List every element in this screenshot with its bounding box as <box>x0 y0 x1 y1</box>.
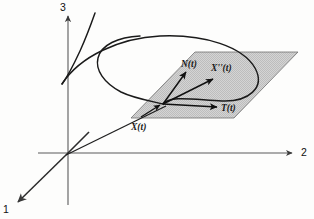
figure-canvas <box>0 0 314 219</box>
origin-tick-segment <box>68 132 89 153</box>
label-normal-vector: N(t) <box>181 60 197 70</box>
axis-1-label: 1 <box>3 204 9 215</box>
axis-1-line <box>18 153 68 202</box>
position-vector-ray <box>66 106 166 155</box>
label-curve-point: X(t) <box>131 123 146 133</box>
label-tangent-vector: T(t) <box>221 104 236 114</box>
axis-3-label: 3 <box>60 2 66 13</box>
frenet-frame-figure: N(t) X''(t) T(t) X(t) 3 2 1 <box>0 0 314 219</box>
axis-2-label: 2 <box>301 147 307 158</box>
label-acceleration-vector: X''(t) <box>211 64 232 74</box>
